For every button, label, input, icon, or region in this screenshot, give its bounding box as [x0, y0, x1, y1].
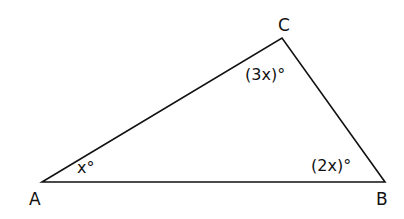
vertex-label-a: A [29, 189, 41, 209]
angle-label-c: (3x)° [245, 65, 285, 84]
angle-label-a: x° [77, 158, 94, 177]
angle-label-b: (2x)° [311, 156, 351, 175]
vertex-label-c: C [278, 15, 290, 35]
vertex-label-b: B [376, 189, 388, 209]
triangle-diagram: C A B (3x)° (2x)° x° [0, 0, 404, 219]
